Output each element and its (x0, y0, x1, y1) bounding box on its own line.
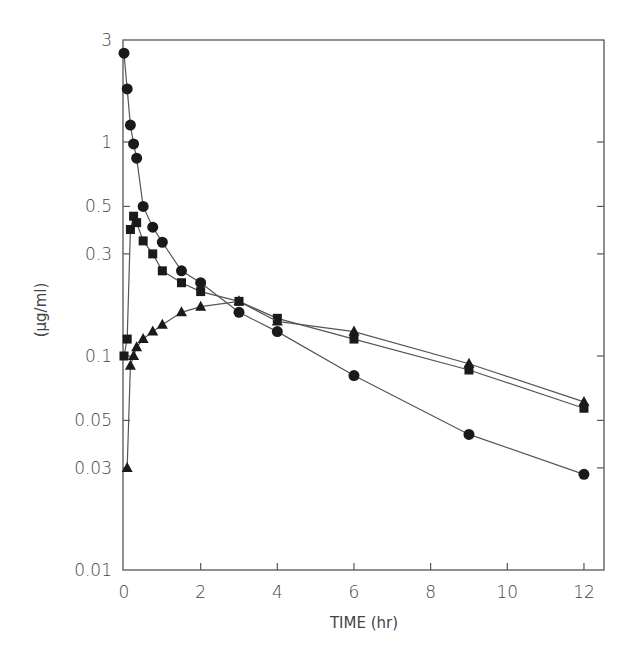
series-line (124, 53, 584, 474)
circle-marker (125, 120, 136, 131)
circle-marker (131, 153, 142, 164)
square-marker (139, 236, 148, 245)
x-axis-ticks: 024681012 (119, 563, 595, 602)
y-tick-label: 0.01 (74, 560, 112, 580)
plot-frame (123, 40, 604, 570)
square-marker (123, 335, 132, 344)
series-triangles (122, 295, 590, 472)
y-tick-label: 0.5 (85, 196, 112, 216)
circle-marker (122, 83, 133, 94)
circle-marker (233, 307, 244, 318)
y-tick-label: 0.3 (85, 244, 112, 264)
square-marker (132, 218, 141, 227)
y-tick-label: 0.1 (85, 346, 112, 366)
x-axis-title: TIME (hr) (329, 614, 398, 632)
series-squares (120, 212, 589, 413)
y-tick-label: 3 (101, 30, 112, 50)
circle-marker (272, 326, 283, 337)
square-marker (177, 278, 186, 287)
x-tick-label: 0 (119, 582, 130, 602)
pk-concentration-chart: 024681012 0.010.030.050.10.30.513 TIME (… (0, 0, 634, 657)
circle-marker (119, 48, 130, 59)
circle-marker (147, 222, 158, 233)
series-line (127, 301, 584, 468)
series-circles (119, 48, 590, 480)
circle-marker (176, 265, 187, 276)
square-marker (349, 335, 358, 344)
y-axis-title: (μg/ml) (32, 283, 50, 338)
square-marker (120, 352, 129, 361)
y-tick-label: 1 (101, 132, 112, 152)
y-axis-ticks: 0.010.030.050.10.30.513 (74, 30, 604, 580)
y-tick-label: 0.05 (74, 410, 112, 430)
triangle-marker (138, 333, 149, 343)
triangle-marker (157, 319, 168, 329)
circle-marker (195, 277, 206, 288)
x-tick-label: 6 (349, 582, 360, 602)
circle-marker (463, 429, 474, 440)
data-series (119, 48, 590, 480)
triangle-marker (125, 360, 136, 370)
x-tick-label: 8 (425, 582, 436, 602)
x-tick-label: 12 (573, 582, 595, 602)
circle-marker (138, 201, 149, 212)
square-marker (158, 266, 167, 275)
square-marker (148, 249, 157, 258)
triangle-marker (147, 326, 158, 336)
x-tick-label: 2 (195, 582, 206, 602)
circle-marker (157, 237, 168, 248)
y-tick-label: 0.03 (74, 458, 112, 478)
circle-marker (348, 370, 359, 381)
square-marker (196, 287, 205, 296)
circle-marker (128, 138, 139, 149)
triangle-marker (128, 350, 139, 360)
x-tick-label: 4 (272, 582, 283, 602)
circle-marker (578, 469, 589, 480)
x-tick-label: 10 (496, 582, 518, 602)
